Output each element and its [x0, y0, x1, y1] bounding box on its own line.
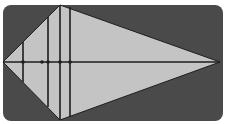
tick-mark-5	[68, 60, 72, 64]
tick-mark-1	[21, 60, 25, 64]
tick-mark-4	[58, 60, 62, 64]
tick-mark-3	[46, 60, 50, 64]
tick-mark-2	[40, 60, 44, 64]
kite-diagram	[0, 0, 228, 124]
diagram-frame	[0, 0, 228, 124]
